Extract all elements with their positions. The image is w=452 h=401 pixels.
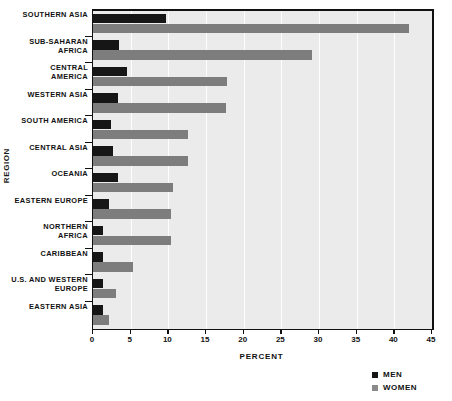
category-label: Caribbean bbox=[14, 249, 88, 258]
bar bbox=[93, 173, 118, 183]
category-label: Eastern Europe bbox=[14, 196, 88, 205]
bar bbox=[93, 130, 188, 140]
y-axis-tick bbox=[85, 36, 92, 37]
y-axis-tick bbox=[85, 274, 92, 275]
bar bbox=[93, 24, 409, 34]
x-axis-tick-label: 20 bbox=[228, 335, 258, 344]
category-label: Central Asia bbox=[14, 143, 88, 152]
legend-swatch-icon bbox=[372, 385, 378, 391]
chart-legend: MenWomen bbox=[372, 368, 446, 394]
y-axis-tick bbox=[85, 89, 92, 90]
category-axis-labels: Southern AsiaSub-Saharan AfricaCentral A… bbox=[14, 9, 88, 327]
x-axis-tick-label: 40 bbox=[378, 335, 408, 344]
category-label: Central America bbox=[14, 63, 88, 82]
x-axis-tick bbox=[431, 329, 432, 334]
bar bbox=[93, 14, 166, 24]
y-axis-tick bbox=[85, 195, 92, 196]
bar bbox=[93, 252, 103, 262]
category-label: Sub-Saharan Africa bbox=[4, 37, 88, 56]
y-axis-tick bbox=[85, 62, 92, 63]
y-axis-tick bbox=[85, 301, 92, 302]
bar bbox=[93, 120, 111, 130]
bar bbox=[93, 40, 119, 50]
x-axis-tick bbox=[356, 329, 357, 334]
y-axis-tick bbox=[85, 248, 92, 249]
x-axis-title: Percent bbox=[92, 352, 431, 361]
bar-chart-figure: Region Southern AsiaSub-Saharan AfricaCe… bbox=[0, 0, 452, 401]
bar bbox=[93, 279, 103, 289]
bar bbox=[93, 209, 171, 219]
bar bbox=[93, 67, 127, 77]
bar bbox=[93, 77, 227, 87]
x-axis-tick-label: 0 bbox=[77, 335, 107, 344]
y-axis-tick bbox=[85, 115, 92, 116]
x-axis-tick-label: 35 bbox=[341, 335, 371, 344]
x-axis-tick-label: 15 bbox=[190, 335, 220, 344]
bar bbox=[93, 305, 103, 315]
y-axis-tick bbox=[85, 221, 92, 222]
x-axis-tick bbox=[318, 329, 319, 334]
x-axis-tick-label: 10 bbox=[152, 335, 182, 344]
y-axis-tick bbox=[85, 142, 92, 143]
plot-area bbox=[92, 9, 434, 330]
bar bbox=[93, 289, 116, 299]
x-axis-tick-labels: 051015202530354045 bbox=[0, 335, 452, 347]
x-axis-tick bbox=[167, 329, 168, 334]
category-label: U.S. and Western Europe bbox=[4, 275, 88, 294]
bar bbox=[93, 315, 109, 325]
bar bbox=[93, 226, 103, 236]
legend-item: Women bbox=[372, 381, 446, 394]
legend-label: Women bbox=[383, 383, 417, 392]
bar bbox=[93, 146, 113, 156]
x-axis-tick-label: 25 bbox=[265, 335, 295, 344]
bar bbox=[93, 50, 312, 60]
category-label: Western Asia bbox=[14, 90, 88, 99]
x-axis-tick-label: 45 bbox=[416, 335, 446, 344]
legend-item: Men bbox=[372, 368, 446, 381]
bar bbox=[93, 262, 133, 272]
x-axis-tick bbox=[130, 329, 131, 334]
category-label: South America bbox=[14, 116, 88, 125]
category-label: Eastern Asia bbox=[14, 302, 88, 311]
x-axis-tick-label: 5 bbox=[115, 335, 145, 344]
x-axis-tick-label: 30 bbox=[303, 335, 333, 344]
x-axis-tick bbox=[393, 329, 394, 334]
category-label: Southern Asia bbox=[14, 10, 88, 19]
bars-container bbox=[93, 11, 432, 329]
bar bbox=[93, 199, 109, 209]
x-axis-tick bbox=[243, 329, 244, 334]
legend-swatch-icon bbox=[372, 372, 378, 378]
bar bbox=[93, 236, 171, 246]
x-axis-tick bbox=[280, 329, 281, 334]
legend-label: Men bbox=[383, 370, 402, 379]
bar bbox=[93, 103, 226, 113]
y-axis-tick bbox=[85, 168, 92, 169]
x-axis-tick bbox=[92, 329, 93, 334]
x-axis-tick bbox=[205, 329, 206, 334]
bar bbox=[93, 156, 188, 166]
category-label: Northern Africa bbox=[14, 222, 88, 241]
bar bbox=[93, 93, 118, 103]
bar bbox=[93, 183, 173, 193]
category-label: Oceania bbox=[14, 169, 88, 178]
